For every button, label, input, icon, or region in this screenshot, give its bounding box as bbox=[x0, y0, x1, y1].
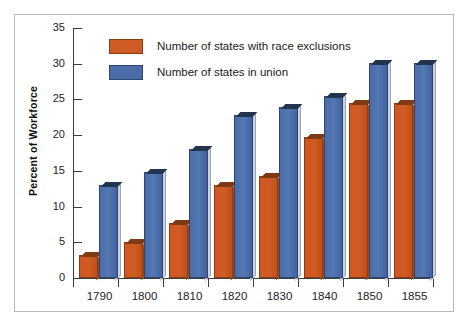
bar-front-face bbox=[394, 103, 413, 278]
bar-1850-race-exclusions bbox=[349, 105, 366, 278]
bar-front-face bbox=[234, 115, 253, 278]
bar-1840-states-in-union bbox=[324, 98, 341, 278]
x-tick-mark bbox=[118, 279, 119, 287]
bar-front-face bbox=[79, 255, 98, 278]
bar-1790-states-in-union bbox=[99, 187, 116, 278]
y-tick-mark bbox=[73, 278, 82, 279]
bar-1850-states-in-union bbox=[369, 65, 386, 278]
bar-1810-race-exclusions bbox=[169, 225, 186, 278]
bar-front-face bbox=[414, 63, 433, 278]
y-tick-label: 25 bbox=[15, 93, 65, 104]
bar-1820-race-exclusions bbox=[214, 187, 231, 278]
y-tick-mark bbox=[73, 207, 82, 208]
y-tick-mark bbox=[73, 64, 82, 65]
bar-front-face bbox=[304, 137, 323, 278]
bar-front-face bbox=[279, 107, 298, 278]
x-tick-mark bbox=[208, 279, 209, 287]
bar-1830-race-exclusions bbox=[259, 178, 276, 278]
y-axis-title: Percent of Workforce bbox=[27, 71, 39, 211]
orange-swatch-icon bbox=[109, 39, 143, 54]
y-tick-label: 30 bbox=[15, 58, 65, 69]
bar-1810-states-in-union bbox=[189, 151, 206, 278]
x-tick-label: 1855 bbox=[385, 290, 445, 302]
x-tick-mark bbox=[298, 279, 299, 287]
x-tick-mark bbox=[73, 279, 74, 287]
bar-front-face bbox=[324, 96, 343, 278]
y-tick-label: 20 bbox=[15, 129, 65, 140]
x-tick-mark bbox=[163, 279, 164, 287]
chart-legend: Number of states with race exclusions Nu… bbox=[109, 35, 351, 87]
x-tick-mark bbox=[388, 279, 389, 287]
legend-label-states-in-union: Number of states in union bbox=[157, 66, 288, 78]
bar-1820-states-in-union bbox=[234, 117, 251, 278]
bar-1855-race-exclusions bbox=[394, 105, 411, 278]
legend-item-race-exclusions: Number of states with race exclusions bbox=[109, 35, 351, 57]
bar-1800-states-in-union bbox=[144, 174, 161, 278]
x-tick-mark bbox=[433, 279, 434, 287]
bar-chart-plot-area: Percent of Workforce 05101520253035 1790… bbox=[15, 15, 455, 313]
y-tick-mark bbox=[73, 242, 82, 243]
bar-front-face bbox=[169, 223, 188, 278]
legend-item-states-in-union: Number of states in union bbox=[109, 61, 351, 83]
y-tick-mark bbox=[73, 99, 82, 100]
bar-1840-race-exclusions bbox=[304, 139, 321, 278]
bar-front-face bbox=[349, 103, 368, 278]
bar-front-face bbox=[259, 176, 278, 278]
bar-front-face bbox=[189, 149, 208, 278]
y-tick-label: 0 bbox=[15, 272, 65, 283]
chart-frame: Percent of Workforce 05101520253035 1790… bbox=[14, 14, 454, 312]
y-tick-mark bbox=[73, 171, 82, 172]
x-tick-mark bbox=[253, 279, 254, 287]
bar-1830-states-in-union bbox=[279, 109, 296, 278]
y-tick-label: 10 bbox=[15, 201, 65, 212]
y-tick-label: 35 bbox=[15, 22, 65, 33]
x-tick-mark bbox=[343, 279, 344, 287]
bar-1790-race-exclusions bbox=[79, 257, 96, 278]
bar-front-face bbox=[99, 185, 118, 278]
blue-swatch-icon bbox=[109, 65, 143, 80]
bar-1800-race-exclusions bbox=[124, 244, 141, 278]
y-tick-mark bbox=[73, 28, 82, 29]
y-tick-mark bbox=[73, 135, 82, 136]
bar-front-face bbox=[214, 185, 233, 278]
bar-front-face bbox=[124, 242, 143, 278]
bar-front-face bbox=[369, 63, 388, 278]
bar-front-face bbox=[144, 172, 163, 278]
y-tick-label: 15 bbox=[15, 165, 65, 176]
y-tick-label: 5 bbox=[15, 236, 65, 247]
y-axis-line bbox=[73, 28, 74, 278]
legend-label-race-exclusions: Number of states with race exclusions bbox=[157, 40, 351, 52]
bar-1855-states-in-union bbox=[414, 65, 431, 278]
